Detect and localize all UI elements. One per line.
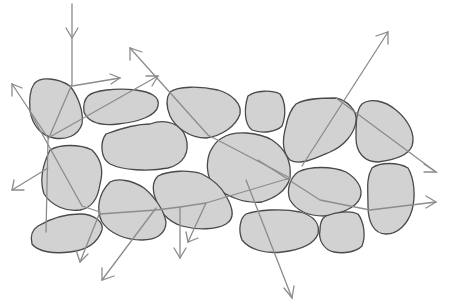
grain-g12 xyxy=(288,168,361,217)
grain-scattering-diagram xyxy=(0,0,452,307)
grain-g16 xyxy=(320,212,364,253)
grain-g9 xyxy=(42,146,102,211)
grain-g13 xyxy=(368,164,414,235)
grains-layer xyxy=(30,79,414,253)
grain-g5 xyxy=(245,91,284,132)
ray-right-1 xyxy=(72,78,120,86)
grain-g2 xyxy=(84,89,159,124)
grain-g6 xyxy=(283,98,356,162)
grain-g15 xyxy=(240,210,318,253)
arrowhead-right-icon xyxy=(424,164,436,172)
grain-g3 xyxy=(102,122,187,170)
grain-g1 xyxy=(30,79,83,139)
grain-g7 xyxy=(356,101,413,162)
